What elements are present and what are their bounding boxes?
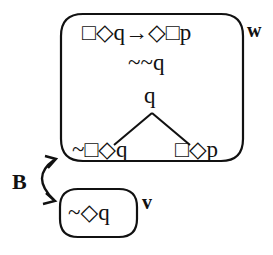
branch-left-formula: ~□◇q xyxy=(72,138,128,161)
branch-right-formula: □◇p xyxy=(175,138,218,161)
formula-conditional: □◇q→◇□p xyxy=(82,21,191,44)
formula-q: q xyxy=(144,84,156,107)
world-v-label: v xyxy=(142,192,152,212)
relation-label: B xyxy=(12,171,27,193)
formula-not-possibly-q: ~◇q xyxy=(68,201,110,224)
world-w-label: w xyxy=(247,20,261,40)
arrowhead-down-icon xyxy=(43,193,55,204)
formula-double-negation: ~~q xyxy=(128,51,164,74)
